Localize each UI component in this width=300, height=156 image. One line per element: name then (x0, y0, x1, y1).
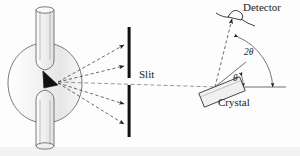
x-ray-tube (8, 7, 82, 149)
detector-right-wing (241, 19, 255, 26)
angle-arcs (215, 37, 286, 87)
two-theta-arc (238, 37, 273, 87)
slit-lower-bar (128, 85, 131, 137)
theta-label: θ (233, 74, 238, 84)
crystal-label: Crystal (218, 97, 250, 108)
figure-canvas: Detector Crystal Slit 2θ θ (0, 0, 300, 156)
upper-neck-tube (36, 10, 54, 70)
lower-neck-tube (36, 90, 54, 146)
upper-neck-rim (36, 7, 54, 13)
bottom-edge-tint (0, 147, 300, 156)
slit-upper-bar (128, 27, 131, 78)
detector-left-wing (216, 13, 229, 17)
detector-body (228, 10, 243, 20)
diffracted-beam-ray (215, 19, 232, 87)
slit-assembly (128, 27, 131, 137)
slit-label: Slit (139, 69, 154, 80)
detector-label: Detector (243, 2, 281, 13)
two-theta-label: 2θ (244, 48, 253, 58)
